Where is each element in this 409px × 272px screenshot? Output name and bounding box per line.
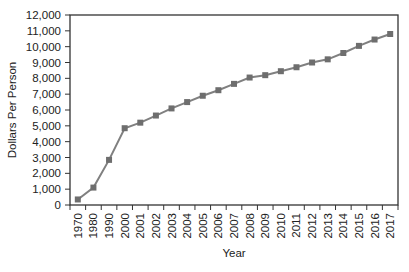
y-tick-label: 10,000	[26, 41, 61, 53]
x-tick-label: 2011	[290, 213, 302, 238]
data-point-marker	[325, 56, 331, 62]
series-line	[78, 34, 390, 199]
x-tick-label: 2012	[306, 213, 318, 239]
x-tick-label: 2001	[134, 213, 146, 239]
x-tick-label: 2006	[212, 213, 224, 239]
x-tick-label: 2009	[259, 213, 271, 239]
y-tick-label: 6,000	[32, 104, 61, 116]
x-tick-label: 2007	[228, 213, 240, 239]
y-tick-label: 7,000	[32, 88, 61, 100]
x-axis-label: Year	[222, 247, 245, 259]
axes: 01,0002,0003,0004,0005,0006,0007,0008,00…	[26, 9, 398, 239]
data-point-marker	[372, 37, 378, 43]
y-tick-label: 1,000	[32, 183, 61, 195]
x-tick-label: 2015	[353, 213, 365, 239]
data-series	[75, 31, 393, 202]
data-point-marker	[262, 72, 268, 78]
data-point-marker	[340, 50, 346, 56]
data-point-marker	[75, 196, 81, 202]
x-tick-label: 1990	[103, 213, 115, 239]
x-tick-label: 2014	[337, 212, 349, 238]
data-point-marker	[106, 157, 112, 163]
x-tick-label: 2016	[369, 213, 381, 239]
x-tick-label: 1980	[87, 213, 99, 239]
data-point-marker	[356, 43, 362, 49]
data-point-marker	[387, 31, 393, 37]
x-tick-label: 2005	[197, 213, 209, 239]
x-tick-label: 2008	[244, 213, 256, 239]
data-point-marker	[309, 60, 315, 66]
data-point-marker	[184, 99, 190, 105]
data-point-marker	[215, 87, 221, 93]
y-tick-label: 11,000	[27, 25, 61, 37]
line-chart: 01,0002,0003,0004,0005,0006,0007,0008,00…	[0, 0, 409, 272]
y-tick-label: 0	[55, 199, 61, 211]
data-point-marker	[90, 185, 96, 191]
x-tick-label: 2000	[119, 213, 131, 239]
x-tick-label: 2017	[384, 213, 396, 239]
data-point-marker	[278, 68, 284, 74]
data-point-marker	[153, 113, 159, 119]
y-tick-label: 4,000	[32, 136, 61, 148]
y-tick-label: 5,000	[32, 120, 61, 132]
data-point-marker	[247, 75, 253, 81]
data-point-marker	[122, 125, 128, 131]
y-tick-label: 9,000	[32, 57, 61, 69]
data-point-marker	[231, 81, 237, 87]
data-point-marker	[200, 93, 206, 99]
x-tick-label: 1970	[72, 213, 84, 239]
data-point-marker	[169, 105, 175, 111]
x-tick-label: 2013	[322, 213, 334, 239]
y-tick-label: 12,000	[26, 9, 61, 21]
y-tick-label: 8,000	[32, 72, 61, 84]
data-point-marker	[293, 64, 299, 70]
y-tick-label: 2,000	[32, 167, 61, 179]
x-tick-label: 2002	[150, 213, 162, 239]
plot-frame	[70, 15, 398, 205]
y-axis-label: Dollars Per Person	[6, 62, 18, 159]
data-point-marker	[137, 120, 143, 126]
x-tick-label: 2010	[275, 213, 287, 239]
x-tick-label: 2003	[166, 213, 178, 239]
x-tick-label: 2004	[181, 212, 193, 238]
y-tick-label: 3,000	[32, 152, 61, 164]
